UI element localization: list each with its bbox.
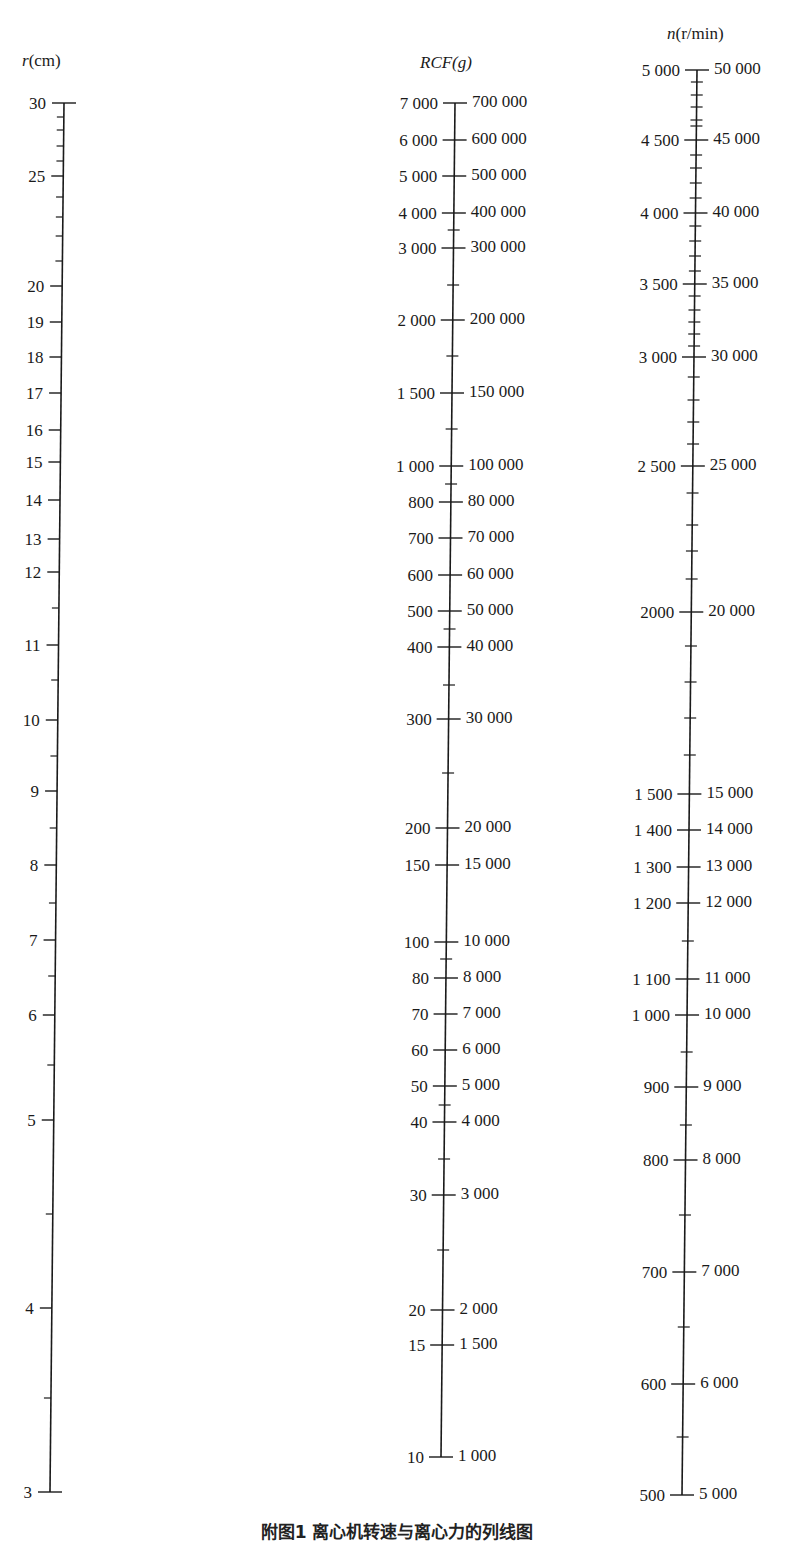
rcf-tick-label-left: 70: [412, 1005, 429, 1024]
rcf-tick-label-left: 10: [407, 1448, 424, 1467]
rcf-tick-label-left: 3 000: [398, 239, 436, 258]
n-axis: n(r/min)5 00050 0004 50045 0004 00040 00…: [632, 24, 761, 1505]
n-tick-label-right: 40 000: [712, 202, 759, 221]
rcf-tick-label-left: 4 000: [399, 204, 437, 223]
r-tick-label: 14: [25, 491, 43, 510]
n-tick-label-left: 3 500: [639, 275, 677, 294]
n-tick-label-right: 15 000: [706, 783, 753, 802]
rcf-tick-label-left: 7 000: [400, 94, 438, 113]
figure-caption: 附图1 离心机转速与离心力的列线图: [0, 1518, 794, 1543]
n-tick-label-left: 600: [641, 1375, 667, 1394]
rcf-axis-line: [441, 103, 455, 1457]
r-axis-title: r(cm): [22, 51, 61, 70]
n-tick-label-left: 1 400: [634, 821, 672, 840]
n-tick-label-left: 1 000: [632, 1006, 670, 1025]
rcf-tick-label-left: 300: [406, 710, 432, 729]
r-axis: r(cm)302520191817161514131211109876543: [22, 51, 76, 1502]
n-tick-label-right: 30 000: [711, 346, 758, 365]
n-tick-label-right: 50 000: [714, 59, 761, 78]
rcf-tick-label-right: 1 500: [459, 1334, 497, 1353]
n-tick-label-right: 25 000: [710, 455, 757, 474]
n-tick-label-left: 4 000: [640, 204, 678, 223]
rcf-tick-label-right: 10 000: [463, 931, 510, 950]
rcf-tick-label-left: 6 000: [399, 131, 437, 150]
n-tick-label-right: 35 000: [712, 273, 759, 292]
n-tick-label-left: 2000: [640, 603, 674, 622]
n-tick-label-right: 6 000: [700, 1373, 738, 1392]
r-tick-label: 16: [26, 421, 43, 440]
r-tick-label: 9: [31, 782, 40, 801]
r-tick-label: 20: [27, 277, 44, 296]
rcf-tick-label-right: 4 000: [461, 1111, 499, 1130]
rcf-tick-label-left: 600: [408, 566, 434, 585]
r-tick-label: 4: [25, 1299, 34, 1318]
n-tick-label-right: 5 000: [699, 1484, 737, 1503]
rcf-tick-label-right: 6 000: [462, 1039, 500, 1058]
rcf-tick-label-right: 300 000: [471, 237, 526, 256]
rcf-tick-label-left: 200: [405, 819, 431, 838]
rcf-tick-label-left: 1 000: [396, 457, 434, 476]
n-tick-label-right: 45 000: [713, 129, 760, 148]
rcf-tick-label-right: 70 000: [468, 527, 515, 546]
r-tick-label: 25: [28, 167, 45, 186]
r-axis-line: [50, 103, 64, 1492]
n-tick-label-left: 500: [640, 1486, 666, 1505]
rcf-tick-label-left: 60: [411, 1041, 428, 1060]
r-tick-label: 10: [23, 711, 40, 730]
rcf-tick-label-right: 8 000: [463, 967, 501, 986]
rcf-tick-label-right: 700 000: [472, 92, 527, 111]
n-tick-label-right: 12 000: [705, 892, 752, 911]
rcf-tick-label-left: 40: [410, 1113, 427, 1132]
rcf-tick-label-right: 40 000: [466, 636, 513, 655]
n-tick-label-right: 9 000: [703, 1076, 741, 1095]
rcf-tick-label-right: 60 000: [467, 564, 514, 583]
r-tick-label: 11: [24, 636, 40, 655]
n-tick-label-left: 4 500: [641, 131, 679, 150]
rcf-tick-label-right: 1 000: [458, 1446, 496, 1465]
rcf-tick-label-right: 100 000: [468, 455, 523, 474]
rcf-tick-label-right: 50 000: [467, 600, 514, 619]
rcf-tick-label-left: 5 000: [399, 167, 437, 186]
n-tick-label-right: 14 000: [706, 819, 753, 838]
r-tick-label: 19: [27, 313, 44, 332]
r-tick-label: 5: [27, 1111, 36, 1130]
rcf-tick-label-left: 20: [409, 1301, 426, 1320]
n-tick-label-left: 1 100: [632, 970, 670, 989]
rcf-tick-label-left: 100: [404, 933, 430, 952]
rcf-axis: RCF(g)7 000700 0006 000600 0005 000500 0…: [396, 53, 527, 1467]
rcf-tick-label-left: 700: [408, 529, 434, 548]
rcf-tick-label-right: 30 000: [466, 708, 513, 727]
rcf-tick-label-left: 400: [407, 638, 433, 657]
n-tick-label-left: 900: [644, 1078, 670, 1097]
r-tick-label: 17: [26, 384, 44, 403]
n-tick-label-left: 700: [642, 1263, 668, 1282]
r-tick-label: 7: [29, 931, 38, 950]
n-tick-label-left: 3 000: [639, 348, 677, 367]
rcf-tick-label-right: 150 000: [469, 382, 524, 401]
n-tick-label-left: 1 500: [634, 785, 672, 804]
rcf-tick-label-left: 150: [405, 856, 431, 875]
rcf-tick-label-left: 1 500: [397, 384, 435, 403]
n-tick-label-left: 2 500: [638, 457, 676, 476]
r-tick-label: 13: [25, 530, 42, 549]
rcf-tick-label-left: 800: [408, 493, 434, 512]
rcf-tick-label-right: 5 000: [462, 1075, 500, 1094]
rcf-tick-label-left: 2 000: [398, 311, 436, 330]
rcf-tick-label-right: 2 000: [460, 1299, 498, 1318]
n-tick-label-left: 5 000: [642, 61, 680, 80]
rcf-tick-label-right: 500 000: [471, 165, 526, 184]
rcf-tick-label-right: 200 000: [470, 309, 525, 328]
n-tick-label-right: 10 000: [704, 1004, 751, 1023]
n-tick-label-right: 13 000: [706, 856, 753, 875]
rcf-tick-label-right: 3 000: [461, 1184, 499, 1203]
n-tick-label-right: 20 000: [708, 601, 755, 620]
n-tick-label-left: 800: [643, 1151, 669, 1170]
rcf-tick-label-right: 7 000: [463, 1003, 501, 1022]
rcf-tick-label-left: 50: [411, 1077, 428, 1096]
n-tick-label-right: 11 000: [704, 968, 750, 987]
rcf-tick-label-right: 15 000: [464, 854, 511, 873]
r-tick-label: 30: [29, 94, 46, 113]
r-tick-label: 3: [24, 1483, 33, 1502]
r-tick-label: 6: [28, 1006, 37, 1025]
